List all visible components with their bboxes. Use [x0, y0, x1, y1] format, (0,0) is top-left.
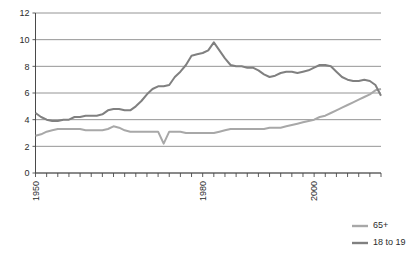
legend-label: 18 to 19 — [373, 237, 406, 247]
line-chart: 024681012 195019802000 65+18 to 19 — [0, 0, 416, 257]
x-axis — [36, 173, 382, 177]
legend-label: 65+ — [373, 220, 388, 230]
series-line-18-to-19 — [36, 42, 382, 121]
chart-legend: 65+18 to 19 — [352, 220, 406, 247]
y-tick-label: 10 — [19, 35, 29, 45]
y-tick-label: 2 — [24, 142, 29, 152]
y-tick-label: 6 — [24, 88, 29, 98]
chart-container: 024681012 195019802000 65+18 to 19 — [0, 0, 416, 257]
y-tick-label: 0 — [24, 168, 29, 178]
y-tick-labels: 024681012 — [19, 8, 29, 178]
x-tick-label: 2000 — [309, 181, 319, 201]
gridlines — [36, 13, 382, 173]
y-tick-label: 12 — [19, 8, 29, 18]
x-tick-label: 1950 — [31, 181, 41, 201]
x-tick-labels: 195019802000 — [31, 181, 320, 201]
y-tick-label: 4 — [24, 115, 29, 125]
y-axis — [33, 13, 36, 173]
x-tick-label: 1980 — [198, 181, 208, 201]
y-tick-label: 8 — [24, 62, 29, 72]
